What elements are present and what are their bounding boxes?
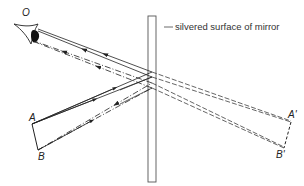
label-mirror: silvered surface of mirror <box>175 22 280 32</box>
rays-A <box>32 72 152 124</box>
object-AB <box>32 124 38 150</box>
label-A-prime: A' <box>288 110 297 120</box>
rays-B <box>38 83 152 150</box>
label-B-prime: B' <box>276 150 285 160</box>
mirror <box>148 16 156 182</box>
eye-icon <box>14 24 39 44</box>
virtual-rays <box>152 72 291 148</box>
reflected-rays <box>34 29 152 88</box>
label-B: B <box>38 152 45 162</box>
label-A: A <box>29 113 36 123</box>
image-A-prime-B-prime <box>284 122 291 148</box>
label-eye-O: O <box>22 8 30 18</box>
